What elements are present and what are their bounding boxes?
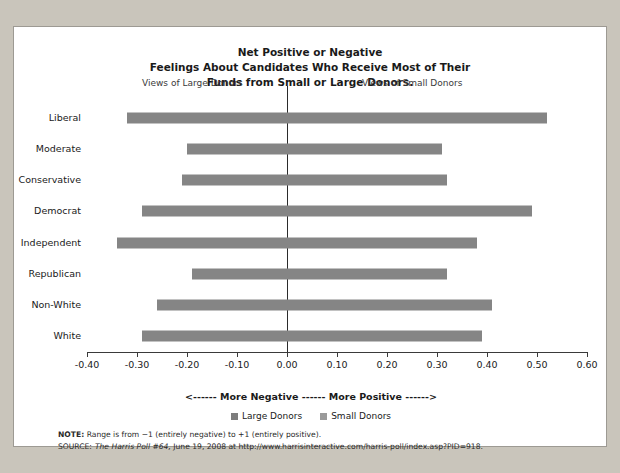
category-label: White (53, 332, 81, 342)
axis-tick (87, 352, 88, 357)
axis-tick (537, 352, 538, 357)
chart-page: Net Positive or Negative Feelings About … (13, 26, 607, 447)
category-label: Republican (29, 269, 81, 279)
axis-tick-label: 0.60 (576, 359, 597, 370)
headnote-large-donors: Views of Large Donors (142, 78, 243, 88)
bar-liberal (127, 112, 547, 123)
category-label: Democrat (34, 207, 81, 217)
source-text: June 19, 2008 at http://www.harrisintera… (171, 442, 483, 451)
x-axis: -0.40-0.30-0.20-0.100.000.100.200.300.40… (87, 352, 587, 353)
axis-tick-label: 0.10 (326, 359, 347, 370)
axis-tick (287, 352, 288, 357)
legend-label: Small Donors (331, 411, 391, 421)
axis-tick (587, 352, 588, 357)
bar-republican (192, 268, 447, 279)
axis-caption: <------ More Negative ------ More Positi… (14, 391, 608, 402)
chart-legend: Large DonorsSmall Donors (14, 411, 608, 421)
legend-swatch-icon (231, 413, 238, 420)
bar-non-white (157, 300, 492, 311)
bar-white (142, 331, 482, 342)
note-text: Range is from −1 (entirely negative) to … (84, 430, 321, 439)
bar-chart: Views of Large Donors Views of Small Don… (14, 27, 608, 448)
category-label: Conservative (19, 175, 81, 185)
axis-tick-label: -0.30 (125, 359, 150, 370)
category-label: Independent (21, 238, 81, 248)
axis-tick-label: -0.40 (75, 359, 100, 370)
bar-independent (117, 237, 477, 248)
footnote-source: SOURCE:The Harris Poll #64, June 19, 200… (58, 442, 483, 451)
axis-tick (337, 352, 338, 357)
bar-conservative (182, 175, 447, 186)
axis-tick (237, 352, 238, 357)
source-label: SOURCE: (58, 442, 92, 451)
axis-tick-label: -0.10 (225, 359, 250, 370)
headnote-small-donors: Views of Small Donors (362, 78, 462, 88)
bar-moderate (187, 143, 442, 154)
bar-democrat (142, 206, 532, 217)
source-publication: The Harris Poll #64, (95, 442, 171, 451)
category-label: Non-White (31, 300, 81, 310)
legend-label: Large Donors (242, 411, 302, 421)
axis-tick-label: 0.30 (426, 359, 447, 370)
axis-tick (187, 352, 188, 357)
axis-tick-label: 0.40 (476, 359, 497, 370)
axis-tick-label: 0.00 (276, 359, 297, 370)
legend-item: Large Donors (231, 411, 302, 421)
category-label: Liberal (49, 113, 81, 123)
axis-tick-label: -0.20 (175, 359, 200, 370)
axis-tick-label: 0.50 (526, 359, 547, 370)
axis-tick (137, 352, 138, 357)
axis-tick (437, 352, 438, 357)
zero-axis-line (287, 86, 288, 352)
axis-tick (387, 352, 388, 357)
legend-item: Small Donors (320, 411, 391, 421)
category-label: Moderate (36, 144, 81, 154)
footnote-note: NOTE: Range is from −1 (entirely negativ… (58, 430, 321, 439)
axis-tick (487, 352, 488, 357)
legend-swatch-icon (320, 413, 327, 420)
plot-area: Views of Large Donors Views of Small Don… (87, 102, 587, 352)
axis-tick-label: 0.20 (376, 359, 397, 370)
note-label: NOTE: (58, 430, 84, 439)
